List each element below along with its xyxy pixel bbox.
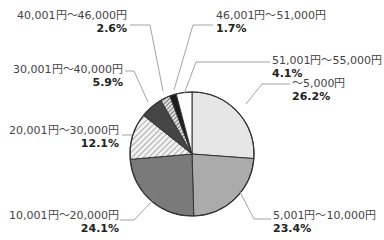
- pie-slice: [192, 154, 254, 216]
- slice-label: 40,001円～46,000円2.6%: [6, 9, 127, 35]
- leader-line: [239, 190, 271, 219]
- slice-percent-text: 23.4%: [273, 222, 376, 235]
- slice-label: ～5,000円26.2%: [292, 77, 346, 103]
- pie-slices: [130, 92, 254, 216]
- slice-label: 5,001円～10,000円23.4%: [273, 209, 376, 235]
- leader-line: [130, 25, 163, 91]
- slice-range-text: 30,001円～40,000円: [13, 63, 123, 76]
- slice-label: 10,001円～20,000円24.1%: [6, 209, 119, 235]
- slice-label: 51,001円～55,000円4.1%: [272, 54, 382, 80]
- slice-label: 30,001円～40,000円5.9%: [6, 63, 123, 89]
- slice-label: 20,001円～30,000円12.1%: [6, 124, 119, 150]
- slice-percent-text: 4.1%: [272, 67, 382, 80]
- slice-range-text: 20,001円～30,000円: [9, 124, 119, 137]
- slice-percent-text: 12.1%: [6, 137, 119, 150]
- pie-slice: [130, 154, 194, 216]
- slice-range-text: 5,001円～10,000円: [273, 209, 376, 222]
- slice-range-text: 40,001円～46,000円: [17, 9, 127, 22]
- leader-line: [174, 25, 213, 90]
- pie-chart: [0, 0, 384, 240]
- slice-percent-text: 1.7%: [216, 22, 326, 35]
- slice-range-text: 10,001円～20,000円: [9, 209, 119, 222]
- slice-percent-text: 24.1%: [6, 222, 119, 235]
- leader-line: [120, 199, 154, 220]
- slice-range-text: 51,001円～55,000円: [272, 54, 382, 67]
- leader-line: [246, 84, 290, 104]
- leader-line: [125, 71, 148, 102]
- slice-label: 46,001円～51,000円1.7%: [216, 9, 326, 35]
- slice-percent-text: 2.6%: [6, 22, 127, 35]
- leader-line: [184, 62, 270, 94]
- slice-range-text: 46,001円～51,000円: [216, 9, 326, 22]
- slice-percent-text: 26.2%: [292, 90, 346, 103]
- slice-percent-text: 5.9%: [6, 76, 123, 89]
- pie-slice: [192, 92, 254, 159]
